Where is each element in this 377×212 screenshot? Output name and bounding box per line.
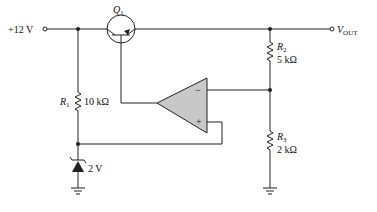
resistor-r1	[75, 92, 81, 111]
r2-value: 5 kΩ	[277, 54, 297, 65]
r1-value: 10 kΩ	[84, 96, 109, 107]
terminal-supply	[43, 27, 47, 31]
emitter-arrow	[124, 29, 130, 35]
opamp-plus: +	[196, 116, 202, 127]
r3-value: 2 kΩ	[277, 144, 297, 155]
resistor-r3	[267, 131, 273, 150]
zener-value: 2 V	[88, 163, 103, 174]
supply-label: +12 V	[8, 24, 34, 35]
circuit-diagram: +12 V VOUT Q1 R1 10 kΩ R2 5 kΩ R3 2 kΩ 2…	[0, 0, 377, 212]
output-label: VOUT	[337, 24, 358, 37]
terminal-output	[330, 27, 334, 31]
opamp-minus: −	[195, 85, 201, 96]
r3-label: R3	[276, 131, 287, 144]
ground-icon	[263, 188, 277, 194]
r1-label: R1	[59, 96, 70, 109]
r2-label: R2	[276, 41, 287, 54]
resistor-r2	[267, 42, 273, 61]
zener-diode	[72, 161, 84, 172]
ground-icon	[71, 188, 85, 194]
